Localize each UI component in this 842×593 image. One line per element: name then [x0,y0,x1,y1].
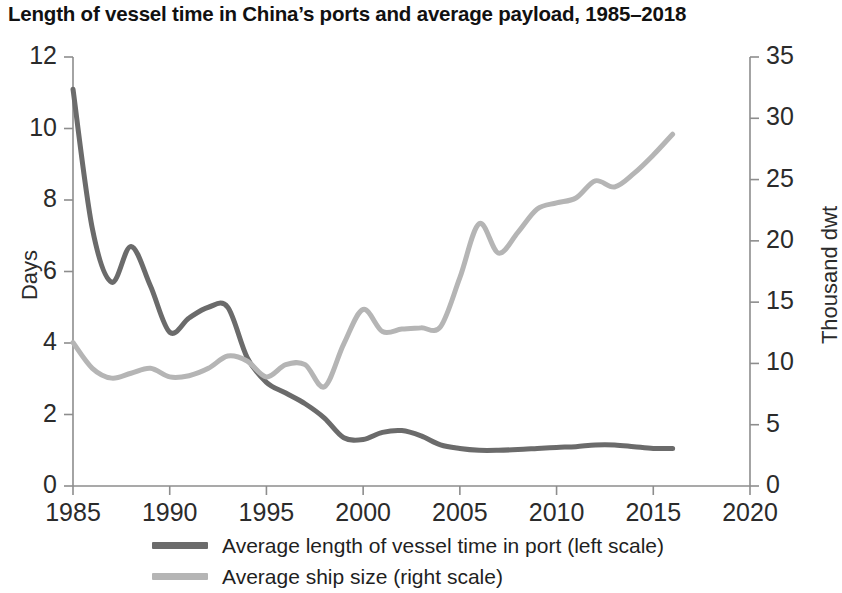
bottom-axis-ticks [73,486,750,495]
left-axis-title: Days [17,215,43,335]
legend-swatch-icon [152,573,208,580]
data-series-group [73,89,673,450]
right-axis-tick-label: 5 [766,409,826,438]
right-axis-tick-label: 35 [766,41,826,70]
axes [73,57,750,486]
left-axis-ticks [64,57,73,486]
left-axis-tick-label: 12 [0,41,57,70]
legend-item[interactable]: Average length of vessel time in port (l… [152,530,792,561]
legend-label: Average length of vessel time in port (l… [222,534,664,558]
x-axis-tick-label: 2020 [690,498,810,527]
right-axis-tick-label: 0 [766,470,826,499]
series-line-1 [73,89,673,450]
chart-legend: Average length of vessel time in port (l… [152,530,792,592]
left-axis-tick-label: 0 [0,470,57,499]
right-axis-ticks [750,57,759,486]
right-axis-title: Thousand dwt [817,175,842,375]
left-axis-tick-label: 8 [0,184,57,213]
legend-swatch-icon [152,542,208,549]
right-axis-tick-label: 30 [766,102,826,131]
legend-item[interactable]: Average ship size (right scale) [152,561,792,592]
left-axis-tick-label: 10 [0,113,57,142]
legend-label: Average ship size (right scale) [222,565,503,589]
series-line-2 [73,134,673,387]
left-axis-tick-label: 2 [0,399,57,428]
